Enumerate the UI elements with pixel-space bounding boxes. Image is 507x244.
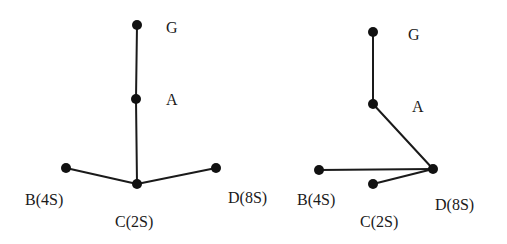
node-label-d: D(8S)	[435, 196, 474, 214]
node-g	[132, 20, 142, 30]
node-label-c: C(2S)	[360, 213, 398, 231]
node-label-b: B(4S)	[25, 191, 63, 209]
node-label-a: A	[166, 91, 178, 108]
edge-c-b	[66, 168, 137, 184]
left-tree-diagram: GAB(4S)C(2S)D(8S)	[25, 19, 267, 231]
edge-a-c	[136, 99, 137, 184]
node-a	[131, 94, 141, 104]
node-d	[211, 163, 221, 173]
tree-diagrams: GAB(4S)C(2S)D(8S) GAB(4S)C(2S)D(8S)	[0, 0, 507, 244]
node-b	[61, 163, 71, 173]
node-label-g: G	[408, 26, 420, 43]
node-c	[132, 179, 142, 189]
node-label-g: G	[166, 19, 178, 36]
edge-d-b	[319, 169, 433, 170]
node-c	[368, 179, 378, 189]
edge-a-d	[373, 104, 433, 169]
node-b	[314, 165, 324, 175]
edge-g-a	[136, 25, 137, 99]
node-a	[368, 99, 378, 109]
node-label-b: B(4S)	[297, 191, 335, 209]
edge-d-c	[373, 169, 433, 184]
node-label-d: D(8S)	[228, 189, 267, 207]
node-label-a: A	[412, 98, 424, 115]
edge-c-d	[137, 168, 216, 184]
right-tree-diagram: GAB(4S)C(2S)D(8S)	[297, 26, 474, 231]
node-g	[368, 27, 378, 37]
node-label-c: C(2S)	[115, 213, 153, 231]
node-d	[428, 164, 438, 174]
